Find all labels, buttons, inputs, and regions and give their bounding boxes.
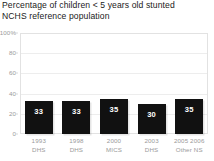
y-axis-tick-label: 100% — [0, 30, 16, 36]
x-axis-tick: 1998DHS — [69, 136, 83, 154]
bar-slot: 33 — [20, 33, 58, 134]
chart-title-line-2: NCHS reference population — [2, 11, 212, 22]
bar-value-label: 35 — [110, 106, 119, 114]
x-axis-tick: 2003DHS — [144, 136, 158, 154]
y-axis-tick-mark — [15, 73, 18, 74]
x-axis-tick-source: DHS — [32, 145, 46, 154]
y-axis-tick-mark — [15, 113, 18, 114]
bar[interactable]: 35 — [175, 99, 203, 134]
y-axis-tick-mark — [15, 53, 18, 54]
x-axis-tick: 2005 2006Other NS — [174, 136, 205, 154]
x-axis-tick-source: DHS — [69, 145, 83, 154]
bar-slot: 33 — [58, 33, 96, 134]
bar-value-label: 33 — [72, 108, 81, 116]
x-axis-tick-source: MICS — [106, 145, 122, 154]
bar[interactable]: 33 — [62, 101, 90, 134]
x-axis-tick: 1993DHS — [32, 136, 46, 154]
x-axis-tick-source: Other NS — [174, 145, 205, 154]
bars-layer: 3333353035 — [20, 33, 208, 134]
x-axis-tick-year: 1998 — [69, 136, 83, 145]
chart-title: Percentage of children < 5 years old stu… — [2, 0, 212, 22]
bar[interactable]: 33 — [25, 101, 53, 134]
y-axis-tick-mark — [15, 134, 18, 135]
bar[interactable]: 35 — [100, 99, 128, 134]
chart-title-line-1: Percentage of children < 5 years old stu… — [2, 0, 212, 11]
x-axis: 1993DHS1998DHS2000MICS2003DHS2005 2006Ot… — [20, 136, 208, 161]
bar-slot: 30 — [133, 33, 171, 134]
x-axis-tick-source: DHS — [144, 145, 158, 154]
bar-value-label: 35 — [185, 106, 194, 114]
x-axis-tick: 2000MICS — [106, 136, 122, 154]
x-axis-tick-year: 2000 — [106, 136, 122, 145]
bar-value-label: 30 — [147, 111, 156, 119]
y-axis-tick-mark — [15, 93, 18, 94]
x-axis-tick-year: 1993 — [32, 136, 46, 145]
bar-value-label: 33 — [34, 108, 43, 116]
stunting-bar-chart-figure: Trends in stunting Percentage of childre… — [0, 0, 214, 161]
x-axis-tick-year: 2005 2006 — [174, 136, 205, 145]
x-axis-tick-year: 2003 — [144, 136, 158, 145]
bar-slot: 35 — [170, 33, 208, 134]
bar-slot: 35 — [95, 33, 133, 134]
y-axis-tick-mark — [15, 33, 18, 34]
bar[interactable]: 30 — [138, 104, 166, 134]
y-axis: 100%806040200 — [0, 33, 18, 134]
